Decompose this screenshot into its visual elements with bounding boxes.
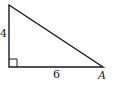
vertical-leg-label: 4	[0, 28, 7, 39]
triangle-shape	[9, 5, 103, 67]
right-angle-marker	[9, 59, 17, 67]
vertex-a-label: A	[98, 70, 106, 81]
right-triangle-figure: 4 6 A	[0, 0, 117, 89]
horizontal-leg-label: 6	[53, 69, 60, 80]
